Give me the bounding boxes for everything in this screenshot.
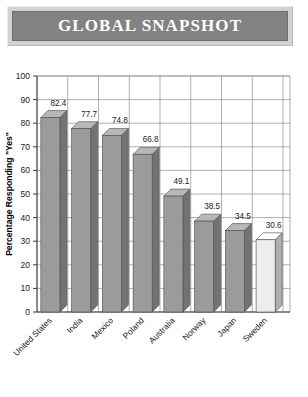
y-tick-label: 10 — [21, 283, 31, 293]
bar-front-face — [164, 196, 183, 312]
x-category-label: Poland — [121, 315, 147, 341]
bar-value-label: 66.8 — [143, 135, 159, 144]
x-category-label: Norway — [180, 315, 208, 343]
bar-norway — [195, 214, 221, 312]
bar-side-face — [152, 147, 159, 312]
bar-united-states — [41, 111, 67, 312]
title-banner-inner: GLOBAL SNAPSHOT — [12, 11, 288, 41]
bar-front-face — [195, 221, 214, 312]
bar-value-label: 30.6 — [266, 221, 282, 230]
bar-value-label: 49.1 — [173, 177, 189, 186]
bar-india — [72, 122, 98, 312]
y-tick-label: 50 — [21, 189, 31, 199]
bar-front-face — [102, 135, 121, 312]
y-tick-label: 40 — [21, 213, 31, 223]
bar-side-face — [183, 189, 190, 312]
title-banner: GLOBAL SNAPSHOT — [7, 6, 293, 46]
y-tick-label: 30 — [21, 236, 31, 246]
bar-front-face — [72, 129, 91, 312]
bar-side-face — [91, 122, 98, 312]
bar-japan — [225, 224, 251, 312]
x-category-label: Sweden — [241, 315, 270, 344]
bar-value-label: 77.7 — [81, 110, 97, 119]
y-tick-label: 90 — [21, 95, 31, 105]
bar-value-label: 34.5 — [235, 212, 251, 221]
y-axis-ticks — [33, 76, 37, 312]
y-tick-label: 80 — [21, 118, 31, 128]
y-tick-label: 100 — [16, 71, 30, 81]
y-tick-label: 20 — [21, 260, 31, 270]
y-tick-label: 70 — [21, 142, 31, 152]
chart-canvas: 1009080706050403020100 82.477.774.866.84… — [0, 52, 308, 397]
bar-side-face — [60, 111, 67, 312]
y-tick-label: 0 — [25, 307, 30, 317]
bar-australia — [164, 189, 190, 312]
x-category-label: United States — [11, 315, 54, 358]
bar-value-label: 74.8 — [112, 116, 128, 125]
bar-front-face — [41, 118, 60, 312]
bar-side-face — [244, 224, 251, 312]
bar-side-face — [214, 214, 221, 312]
category-labels: United StatesIndiaMexicoPolandAustraliaN… — [11, 315, 269, 358]
y-axis-title: Percentage Responding "Yes" — [4, 132, 14, 256]
bar-side-face — [121, 128, 128, 312]
bar-chart: 1009080706050403020100 82.477.774.866.84… — [0, 52, 308, 397]
bar-value-label: 82.4 — [50, 99, 66, 108]
bar-front-face — [133, 154, 152, 312]
x-category-label: India — [65, 315, 85, 335]
bar-front-face — [225, 231, 244, 312]
y-axis-labels: 1009080706050403020100 — [16, 71, 30, 317]
page-title: GLOBAL SNAPSHOT — [58, 16, 242, 36]
x-category-label: Australia — [147, 315, 177, 345]
bar-poland — [133, 147, 159, 312]
y-axis-title-text: Percentage Responding "Yes" — [4, 132, 14, 256]
x-category-label: Mexico — [89, 315, 115, 341]
bar-mexico — [102, 128, 128, 312]
bar-sweden — [256, 233, 282, 312]
bar-value-label: 38.5 — [204, 202, 220, 211]
bar-side-face — [275, 233, 282, 312]
bar-front-face — [256, 240, 275, 312]
x-category-label: Japan — [215, 315, 238, 338]
y-tick-label: 60 — [21, 165, 31, 175]
